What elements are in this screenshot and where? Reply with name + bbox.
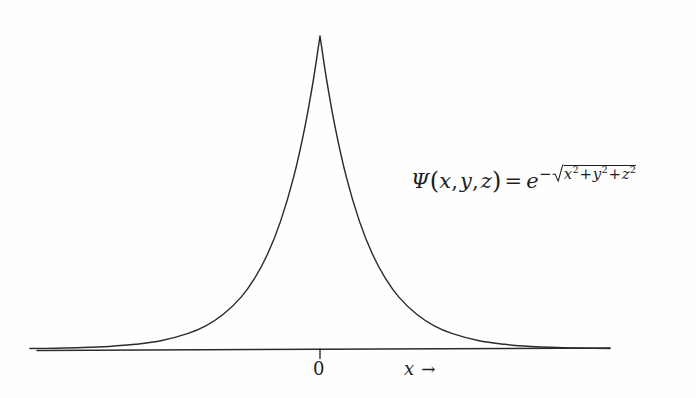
formula-comma-2: , bbox=[472, 169, 481, 193]
radicand-plus-1: + bbox=[579, 165, 592, 183]
radicand-z: z bbox=[622, 165, 630, 183]
radicand-y-exponent: 2 bbox=[601, 164, 607, 175]
radicand-x-exponent: 2 bbox=[572, 164, 578, 175]
formula-minus-sign: − bbox=[539, 165, 552, 183]
formula-close-paren: ) bbox=[492, 167, 502, 195]
formula-var-y: y bbox=[460, 169, 472, 193]
x-axis-label: x→ bbox=[404, 360, 435, 378]
x-axis-label-text: x bbox=[404, 358, 414, 379]
origin-tick-label: 0 bbox=[313, 360, 324, 378]
formula-var-z: z bbox=[481, 169, 492, 193]
radicand-plus-2: + bbox=[608, 165, 621, 183]
right-arrow-icon: → bbox=[421, 359, 435, 379]
formula-var-x: x bbox=[439, 169, 451, 193]
radical-overbar: x2+y2+z2 bbox=[564, 165, 636, 182]
formula-exponent: −x2+y2+z2 bbox=[539, 164, 636, 182]
formula-comma-1: , bbox=[451, 169, 460, 193]
radical-sign-icon bbox=[552, 164, 564, 182]
formula-base-e: e bbox=[526, 169, 539, 193]
formula-psi-symbol: Ψ bbox=[411, 169, 430, 193]
formula-open-paren: ( bbox=[430, 167, 440, 195]
wavefunction-formula: Ψ(x,y,z)=e−x2+y2+z2 bbox=[411, 168, 636, 192]
formula-radical: x2+y2+z2 bbox=[552, 164, 636, 182]
wavefunction-figure: Ψ(x,y,z)=e−x2+y2+z2 0 x→ bbox=[0, 0, 696, 398]
formula-equals-sign: = bbox=[505, 169, 523, 193]
x-axis-line bbox=[37, 348, 610, 351]
wavefunction-curve bbox=[30, 36, 610, 349]
plot-canvas bbox=[0, 0, 696, 398]
radicand-z-exponent: 2 bbox=[630, 164, 636, 175]
